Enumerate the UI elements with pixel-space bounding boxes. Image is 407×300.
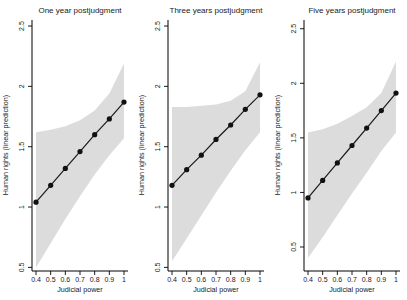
y-tick-label: 2.5 <box>18 21 25 31</box>
x-tick-label: 0.6 <box>332 276 342 283</box>
chart-layers: 0.511.522.50.40.50.60.70.80.91 <box>290 20 400 283</box>
x-axis-title: Judicial power <box>193 285 239 294</box>
panel-one-year: 0.511.522.50.40.50.60.70.80.91 One year … <box>0 0 135 300</box>
x-tick-label: 0.5 <box>182 276 192 283</box>
data-point <box>63 166 68 171</box>
x-tick-label: 0.4 <box>31 276 41 283</box>
y-tick-label: 1.5 <box>18 142 25 152</box>
x-tick-label: 0.9 <box>240 276 250 283</box>
panel-three-years: 0.511.522.50.40.50.60.70.80.91 Three yea… <box>136 0 271 300</box>
data-point <box>379 108 384 113</box>
confidence-band <box>172 62 260 261</box>
data-point <box>213 137 218 142</box>
data-point <box>48 183 53 188</box>
data-point <box>335 160 340 165</box>
y-axis-title: Human rights (linear prediction) <box>273 95 282 195</box>
y-tick-label: 0.5 <box>154 262 161 272</box>
x-tick-label: 0.9 <box>104 276 114 283</box>
data-point <box>393 91 398 96</box>
data-point <box>320 178 325 183</box>
chart-layers: 0.511.522.50.40.50.60.70.80.91 <box>154 20 264 283</box>
y-tick-label: 0.5 <box>18 262 25 272</box>
data-point <box>121 99 126 104</box>
y-tick-label: 2.5 <box>290 24 297 34</box>
x-axis-title: Judicial power <box>329 285 375 294</box>
y-tick-label: 1.5 <box>154 142 161 152</box>
panel-title: Three years postjudgment <box>170 6 264 15</box>
panel-five-years-chart: 0.511.522.50.40.50.60.70.80.91 Five year… <box>272 0 407 300</box>
data-point <box>107 116 112 121</box>
x-tick-label: 0.7 <box>211 276 221 283</box>
y-tick-label: 2 <box>18 84 25 88</box>
x-tick-label: 0.8 <box>362 276 372 283</box>
x-axis-title: Judicial power <box>57 285 103 294</box>
y-axis-title: Human rights (linear prediction) <box>137 95 146 195</box>
chart-layers: 0.511.522.50.40.50.60.70.80.91 <box>18 20 128 283</box>
x-tick-label: 0.4 <box>167 276 177 283</box>
y-tick-label: 1 <box>154 205 161 209</box>
y-tick-label: 2 <box>290 81 297 85</box>
x-tick-label: 0.5 <box>318 276 328 283</box>
data-point <box>349 143 354 148</box>
y-tick-label: 2 <box>154 84 161 88</box>
y-tick-label: 2.5 <box>154 21 161 31</box>
y-axis-title: Human rights (linear prediction) <box>1 95 10 195</box>
data-point <box>305 195 310 200</box>
y-tick-label: 1 <box>290 190 297 194</box>
panel-three-years-chart: 0.511.522.50.40.50.60.70.80.91 Three yea… <box>136 0 271 300</box>
x-tick-label: 0.9 <box>376 276 386 283</box>
x-tick-label: 0.5 <box>46 276 56 283</box>
data-point <box>77 149 82 154</box>
y-tick-label: 0.5 <box>290 242 297 252</box>
x-tick-label: 0.4 <box>303 276 313 283</box>
panel-title: Five years postjudgment <box>308 6 396 15</box>
x-tick-label: 0.6 <box>60 276 70 283</box>
x-tick-label: 1 <box>258 276 262 283</box>
data-point <box>243 107 248 112</box>
data-point <box>169 183 174 188</box>
data-point <box>199 153 204 158</box>
x-tick-label: 1 <box>122 276 126 283</box>
data-point <box>228 122 233 127</box>
x-tick-label: 0.7 <box>75 276 85 283</box>
panel-one-year-chart: 0.511.522.50.40.50.60.70.80.91 One year … <box>0 0 135 300</box>
panel-title: One year postjudgment <box>38 6 122 15</box>
x-tick-label: 0.7 <box>347 276 357 283</box>
data-point <box>184 167 189 172</box>
three-panel-margins-figure: 0.511.522.50.40.50.60.70.80.91 One year … <box>0 0 407 300</box>
x-tick-label: 1 <box>394 276 398 283</box>
confidence-band <box>36 63 124 267</box>
x-tick-label: 0.6 <box>196 276 206 283</box>
x-tick-label: 0.8 <box>90 276 100 283</box>
data-point <box>364 125 369 130</box>
y-tick-label: 1 <box>18 205 25 209</box>
y-tick-label: 1.5 <box>290 133 297 143</box>
data-point <box>92 132 97 137</box>
data-point <box>257 92 262 97</box>
data-point <box>33 200 38 205</box>
panel-five-years: 0.511.522.50.40.50.60.70.80.91 Five year… <box>272 0 407 300</box>
x-tick-label: 0.8 <box>226 276 236 283</box>
confidence-band <box>308 61 396 257</box>
